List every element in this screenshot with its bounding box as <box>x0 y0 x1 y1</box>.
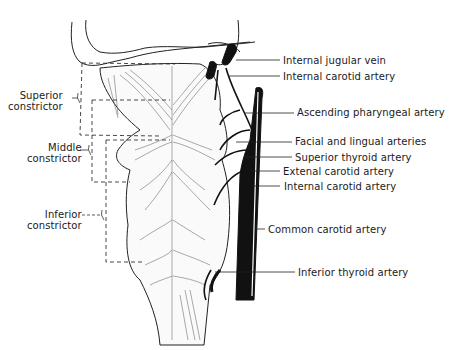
label-inferior-constrictor: Inferior constrictor <box>27 209 82 231</box>
label-line: Superior <box>8 90 63 101</box>
label-line: Inferior <box>27 209 82 220</box>
label-superior-thyroid-artery: Superior thyroid artery <box>295 152 412 163</box>
label-external-carotid-artery: Extenal carotid artery <box>283 166 394 177</box>
jugular-vein <box>206 44 237 79</box>
label-inferior-thyroid-artery: Inferior thyroid artery <box>298 267 408 278</box>
label-superior-constrictor: Superior constrictor <box>8 90 63 112</box>
label-line: constrictor <box>27 153 82 164</box>
label-facial-lingual-arteries: Facial and lingual arteries <box>295 136 426 147</box>
label-line: constrictor <box>8 101 63 112</box>
pharynx <box>100 63 230 345</box>
label-internal-carotid-artery-upper: Internal carotid artery <box>283 71 395 82</box>
carotid-arteries <box>236 87 263 300</box>
label-line: constrictor <box>27 220 82 231</box>
label-internal-jugular-vein: Internal jugular vein <box>283 55 386 66</box>
label-internal-carotid-artery-lower: Internal carotid artery <box>284 181 396 192</box>
label-ascending-pharyngeal-artery: Ascending pharyngeal artery <box>297 107 445 118</box>
label-line: Middle <box>27 142 82 153</box>
label-common-carotid-artery: Common carotid artery <box>268 224 387 235</box>
label-middle-constrictor: Middle constrictor <box>27 142 82 164</box>
